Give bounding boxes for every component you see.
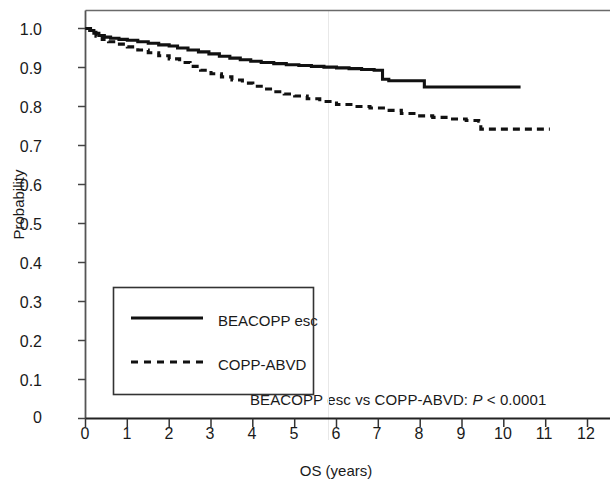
survival-curves [86,29,550,130]
y-axis-ticks [78,29,86,419]
x-axis-ticks [86,419,588,428]
kaplan-meier-survival-chart: Probability 1.0 0.9 0.8 0.7 0.6 0.5 0.4 … [0,0,611,488]
plot-area [0,0,611,488]
curve-beacopp-esc [86,29,521,88]
legend-box [114,288,314,395]
